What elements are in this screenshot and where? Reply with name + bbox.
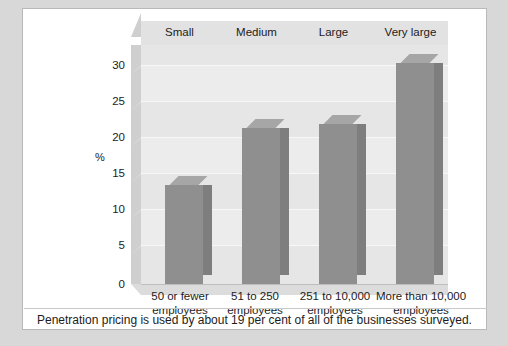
group-header-small: Small: [141, 24, 218, 40]
bar-top-face: [170, 176, 208, 185]
chart-caption: Penetration pricing is used by about 19 …: [37, 313, 477, 327]
bar-side-face: [280, 128, 289, 275]
category-line-1: 50 or fewer: [133, 290, 227, 304]
y-tick-25: 25: [97, 94, 125, 108]
axis-wall: [131, 45, 141, 284]
category-line-1: More than 10,000: [368, 290, 474, 304]
bar-front-face: [319, 124, 357, 284]
bar-front-face: [396, 63, 434, 284]
header-band-3d-edge: [131, 13, 141, 37]
y-tick-0: 0: [97, 277, 125, 291]
group-header-large: Large: [295, 24, 372, 40]
group-header-very-large: Very large: [372, 24, 449, 40]
category-line-1: 51 to 250: [215, 290, 295, 304]
bar-front-face: [165, 185, 203, 284]
bar-front-face: [242, 128, 280, 284]
caption-divider: [24, 308, 487, 309]
y-tick-10: 10: [97, 202, 125, 216]
bar-more-than-10000-employees: [396, 45, 434, 284]
bar-51-to-250-employees: [242, 45, 280, 284]
y-axis: 30 25 20 15 10 5 0: [91, 9, 125, 331]
plot-area: [141, 45, 448, 284]
y-tick-20: 20: [97, 130, 125, 144]
bar-side-face: [434, 63, 443, 275]
bar-top-face: [247, 119, 285, 128]
y-tick-30: 30: [97, 58, 125, 72]
bar-top-face: [324, 115, 362, 124]
bar-side-face: [357, 124, 366, 275]
group-header-medium: Medium: [218, 24, 295, 40]
bar-top-face: [401, 54, 439, 63]
y-axis-unit-label: %: [95, 151, 105, 163]
y-tick-15: 15: [97, 166, 125, 180]
chart-figure-panel: Small Medium Large Very large: [22, 8, 487, 330]
y-tick-5: 5: [97, 238, 125, 252]
bar-251-to-10000-employees: [319, 45, 357, 284]
bar-50-or-fewer-employees: [165, 45, 203, 284]
bar-side-face: [203, 185, 212, 275]
plot-floor-edge: [141, 284, 448, 285]
